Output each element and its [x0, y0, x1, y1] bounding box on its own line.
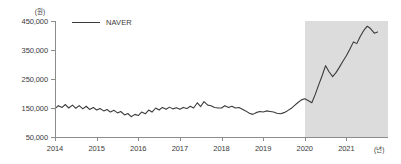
y-axis-line [55, 21, 56, 137]
y-tick-mark [51, 79, 55, 80]
x-tick-mark [222, 137, 223, 141]
legend-swatch-naver [72, 22, 100, 23]
x-tick-mark [138, 137, 139, 141]
x-tick-mark [305, 137, 306, 141]
y-tick-mark [51, 21, 55, 22]
y-tick-mark [51, 108, 55, 109]
series-naver-line [55, 21, 388, 137]
x-tick-label: 2014 [47, 144, 63, 153]
x-tick-label: 2015 [88, 144, 104, 153]
y-tick-label: 50,000 [26, 133, 48, 142]
naver-stock-price-line-chart: (원) 450,000350,000250,000150,00050,000 2… [0, 0, 401, 164]
y-tick-label: 350,000 [22, 46, 48, 55]
x-tick-mark [346, 137, 347, 141]
x-axis-unit-label: (년) [374, 144, 384, 154]
x-tick-label: 2016 [130, 144, 146, 153]
legend-label-naver: NAVER [106, 18, 132, 27]
x-tick-mark [180, 137, 181, 141]
x-tick-label: 2018 [213, 144, 229, 153]
chart-legend: NAVER [72, 18, 132, 27]
plot-area [55, 21, 388, 137]
y-axis-unit-label: (원) [26, 6, 54, 16]
y-tick-label: 450,000 [22, 17, 48, 26]
x-tick-label: 2020 [297, 144, 313, 153]
x-tick-label: 2019 [255, 144, 271, 153]
x-tick-mark [55, 137, 56, 141]
x-tick-mark [263, 137, 264, 141]
y-tick-label: 150,000 [22, 104, 48, 113]
y-tick-label: 250,000 [22, 75, 48, 84]
x-tick-mark [97, 137, 98, 141]
y-tick-mark [51, 50, 55, 51]
x-tick-label: 2017 [172, 144, 188, 153]
x-tick-label: 2021 [338, 144, 354, 153]
